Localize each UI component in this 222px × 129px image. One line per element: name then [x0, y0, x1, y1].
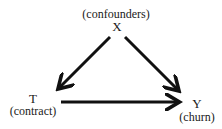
- node-y-label: Y: [192, 98, 201, 110]
- node-x-label: X: [112, 21, 121, 33]
- node-t-description: (contract): [10, 105, 57, 117]
- node-y-description: (churn): [179, 111, 214, 123]
- edge-x-to-y: [125, 37, 178, 90]
- causal-diagram: (confounders) X T (contract) Y (churn): [0, 0, 222, 129]
- edge-x-to-t: [59, 37, 110, 88]
